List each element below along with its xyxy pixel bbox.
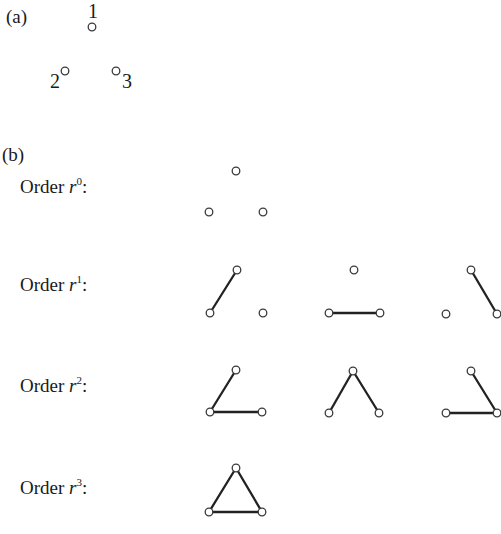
vertex-icon	[467, 367, 475, 375]
vertex-icon	[350, 266, 358, 274]
edge	[471, 270, 497, 314]
edge	[471, 371, 497, 413]
graph-order1-edge-23	[325, 266, 384, 317]
graph-order2-edges-13-23	[442, 367, 501, 417]
vertex-icon	[493, 409, 501, 417]
vertex-icon	[259, 208, 267, 216]
vertex-icon	[349, 367, 357, 375]
vertex-1-icon	[88, 23, 96, 31]
graph-order2-edges-12-23	[206, 366, 266, 416]
vertex-icon	[232, 366, 240, 374]
vertex-icon	[375, 409, 383, 417]
vertex-icon	[258, 408, 266, 416]
vertex-icon	[442, 409, 450, 417]
vertex-icon	[467, 266, 475, 274]
edge	[210, 370, 236, 412]
edge	[236, 468, 262, 512]
vertex-icon	[493, 310, 501, 318]
vertex-icon	[206, 408, 214, 416]
part-a-triangle	[61, 23, 120, 75]
vertex-2-icon	[61, 67, 69, 75]
vertex-icon	[205, 208, 213, 216]
vertex-icon	[205, 508, 213, 516]
graph-order3-complete	[205, 464, 266, 516]
graph-figure	[0, 0, 501, 534]
vertex-icon	[232, 167, 240, 175]
vertex-icon	[258, 508, 266, 516]
edge	[209, 468, 236, 512]
vertex-icon	[325, 309, 333, 317]
graph-order1-edge-13	[442, 266, 501, 318]
vertex-icon	[233, 266, 241, 274]
edge	[353, 371, 379, 413]
vertex-3-icon	[112, 67, 120, 75]
graph-order0-empty	[205, 167, 267, 216]
vertex-icon	[232, 464, 240, 472]
vertex-icon	[206, 309, 214, 317]
vertex-icon	[442, 310, 450, 318]
vertex-icon	[259, 309, 267, 317]
edge	[210, 270, 237, 313]
graph-order2-edges-12-13	[325, 367, 383, 417]
edge	[329, 371, 353, 413]
vertex-icon	[376, 309, 384, 317]
vertex-icon	[325, 409, 333, 417]
graph-order1-edge-12	[206, 266, 267, 317]
